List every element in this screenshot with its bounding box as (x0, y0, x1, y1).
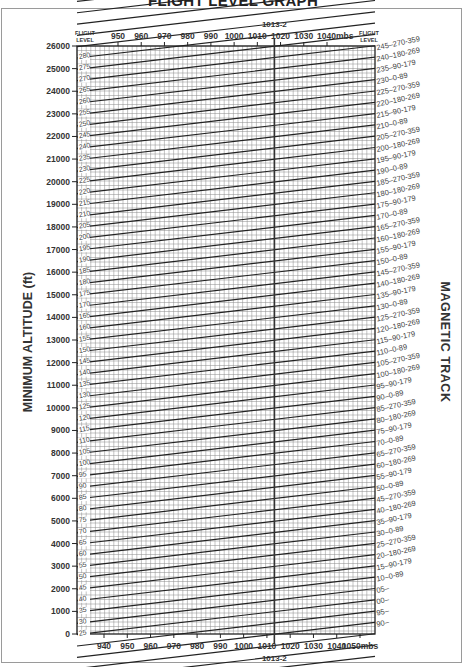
svg-text:1000: 1000 (225, 31, 244, 41)
svg-text:1040mbs: 1040mbs (317, 31, 354, 41)
svg-text:7000: 7000 (51, 471, 70, 481)
svg-text:95: 95 (78, 470, 87, 478)
svg-text:18000: 18000 (46, 222, 70, 232)
svg-text:35: 35 (78, 606, 87, 614)
svg-text:3000: 3000 (51, 561, 70, 571)
svg-text:12000: 12000 (46, 358, 70, 368)
svg-text:LEVEL: LEVEL (76, 37, 94, 43)
svg-text:19000: 19000 (46, 199, 70, 209)
axes (72, 38, 375, 644)
svg-text:980: 980 (181, 31, 195, 41)
plot-grid (77, 46, 375, 634)
svg-text:11000: 11000 (47, 380, 70, 390)
svg-text:05–: 05– (376, 583, 391, 595)
svg-text:95–: 95– (376, 606, 391, 618)
svg-text:950: 950 (120, 641, 134, 651)
svg-text:25: 25 (78, 628, 87, 636)
svg-text:24000: 24000 (46, 86, 70, 96)
svg-text:00–: 00– (376, 595, 391, 607)
svg-text:50: 50 (78, 572, 87, 580)
svg-text:950: 950 (111, 31, 125, 41)
svg-text:65: 65 (78, 538, 87, 546)
svg-text:1000: 1000 (51, 606, 70, 616)
svg-text:990: 990 (204, 31, 218, 41)
svg-text:4000: 4000 (51, 539, 70, 549)
svg-text:14000: 14000 (46, 312, 70, 322)
svg-text:980: 980 (190, 641, 204, 651)
svg-text:75: 75 (78, 515, 87, 523)
svg-text:70: 70 (78, 527, 87, 535)
svg-text:45: 45 (78, 583, 87, 591)
svg-text:1013-2: 1013-2 (262, 654, 287, 663)
svg-text:25000: 25000 (46, 64, 70, 74)
svg-text:1013-2: 1013-2 (262, 20, 287, 29)
svg-text:LEVEL: LEVEL (360, 37, 378, 43)
svg-text:FLIGHT: FLIGHT (359, 30, 379, 36)
svg-text:1010: 1010 (248, 31, 267, 41)
svg-text:20000: 20000 (46, 177, 70, 187)
svg-text:0: 0 (65, 629, 70, 639)
svg-text:90–: 90– (376, 617, 391, 629)
svg-text:2000: 2000 (51, 584, 70, 594)
svg-text:85: 85 (78, 493, 87, 501)
svg-text:940: 940 (97, 641, 111, 651)
svg-text:22000: 22000 (46, 131, 70, 141)
svg-text:1020: 1020 (281, 641, 300, 651)
svg-text:15000: 15000 (46, 290, 70, 300)
svg-text:990: 990 (213, 641, 227, 651)
svg-text:1000: 1000 (234, 641, 253, 651)
svg-text:1020: 1020 (271, 31, 290, 41)
flight-level-chart: 0100020003000400050006000700080009000100… (0, 0, 466, 667)
svg-text:17000: 17000 (46, 245, 70, 255)
svg-text:30: 30 (78, 617, 87, 625)
svg-text:80: 80 (78, 504, 87, 512)
svg-text:16000: 16000 (46, 267, 70, 277)
svg-text:60: 60 (78, 549, 87, 557)
svg-text:23000: 23000 (46, 109, 70, 119)
svg-text:9000: 9000 (51, 425, 70, 435)
svg-text:13000: 13000 (46, 335, 70, 345)
svg-text:8000: 8000 (51, 448, 70, 458)
svg-text:90: 90 (78, 481, 87, 489)
svg-text:26000: 26000 (46, 41, 70, 51)
svg-text:970: 970 (157, 31, 171, 41)
svg-text:5000: 5000 (51, 516, 70, 526)
svg-text:55: 55 (78, 561, 87, 569)
svg-text:10000: 10000 (46, 403, 70, 413)
svg-text:6000: 6000 (51, 493, 70, 503)
svg-text:1010: 1010 (257, 641, 276, 651)
svg-text:21000: 21000 (46, 154, 70, 164)
svg-text:970: 970 (167, 641, 181, 651)
svg-text:1030: 1030 (304, 641, 323, 651)
svg-text:960: 960 (143, 641, 157, 651)
svg-text:1030: 1030 (294, 31, 313, 41)
svg-text:960: 960 (134, 31, 148, 41)
svg-text:40: 40 (78, 594, 87, 602)
svg-text:1050mbs: 1050mbs (342, 641, 379, 651)
svg-text:FLIGHT: FLIGHT (75, 30, 95, 36)
